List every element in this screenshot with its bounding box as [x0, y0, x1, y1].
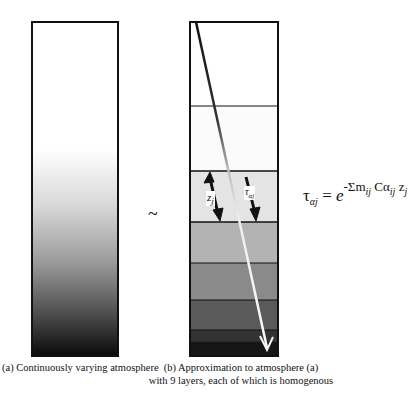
- exponent-sum: -Σm: [344, 179, 366, 194]
- caption-b-line2: with 9 layers, each of which is homogeno…: [148, 374, 334, 387]
- z-subscript: j: [211, 196, 214, 206]
- formula-lhs: τ: [303, 186, 310, 205]
- formula-equals: =: [318, 186, 336, 205]
- exponent-c-alpha: Cα: [371, 179, 390, 194]
- tau-subscript: αj: [249, 192, 255, 200]
- transmittance-formula: ταj = e-Σmij Cαij zj: [303, 182, 407, 207]
- panel-a-continuous-atmosphere: [32, 22, 118, 356]
- exponent-sub-j: j: [404, 186, 407, 197]
- formula-base: e: [336, 186, 344, 205]
- panel-b-layered-atmosphere: [190, 22, 278, 356]
- caption-b-line1: (b) Approximation to atmosphere (a): [158, 361, 324, 374]
- caption-a: (a) Continuously varying atmosphere: [2, 361, 159, 374]
- tau-alpha-j-label: ταj: [244, 186, 255, 200]
- zj-label: zj: [206, 191, 215, 206]
- formula-exponent: -Σmij Cαij zj: [344, 179, 408, 194]
- formula-lhs-sub: αj: [310, 196, 318, 207]
- approximation-symbol: ~: [148, 204, 158, 225]
